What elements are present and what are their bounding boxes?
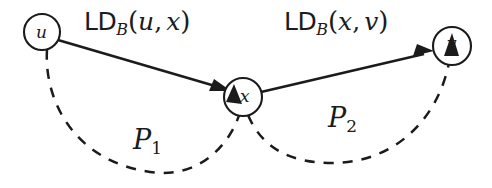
- path-label-p1: P1: [133, 126, 162, 157]
- edge-label-x-v-arg2: v: [364, 7, 378, 36]
- edge-label-x-v-separator: ,: [352, 7, 360, 36]
- node-label-x: x: [240, 88, 250, 105]
- edge-label-u-x-arg1: u: [138, 7, 154, 36]
- path-label-p2-name: P: [328, 102, 346, 133]
- edge-label-u-x-prefix: LD: [84, 7, 116, 36]
- path-label-p1-name: P: [133, 124, 151, 155]
- path-label-p1-index: 1: [151, 138, 162, 158]
- edge-label-u-x-subscript: B: [116, 20, 128, 39]
- edge-line-u-x: [58, 40, 222, 88]
- edge-label-u-x-separator: ,: [154, 7, 162, 36]
- edge-label-x-v-close-paren: ): [378, 6, 388, 36]
- node-label-v: v: [447, 35, 457, 52]
- edge-label-x-v: LDB(x,v): [284, 8, 388, 38]
- edge-label-x-v-subscript: B: [316, 20, 328, 39]
- edge-label-u-x-close-paren: ): [180, 6, 190, 36]
- edge-label-u-x: LDB(u,x): [84, 8, 190, 38]
- path-label-p2-index: 2: [346, 116, 357, 136]
- edge-line-x-v: [261, 54, 424, 92]
- edge-label-u-x-arg2: x: [166, 7, 180, 36]
- edge-label-u-x-open-paren: (: [128, 6, 138, 36]
- node-label-u: u: [36, 24, 47, 41]
- edge-label-x-v-arg1: x: [338, 7, 352, 36]
- graph-diagram: u x v LDB(u,x) LDB(x,v) P1 P2: [0, 0, 492, 188]
- edge-label-x-v-prefix: LD: [284, 7, 316, 36]
- path-label-p2: P2: [328, 104, 357, 135]
- edge-label-x-v-open-paren: (: [328, 6, 338, 36]
